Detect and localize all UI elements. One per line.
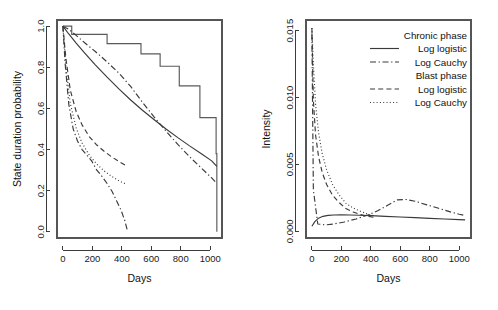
x-tick-label-5: 1000 bbox=[200, 253, 221, 264]
y-tick-label-0: 0.0 bbox=[36, 225, 47, 238]
y-tick-label-3: 0.015 bbox=[285, 19, 296, 43]
series-path-2 bbox=[312, 28, 374, 217]
legend-label-0: Chronic phase bbox=[404, 30, 468, 41]
series-path-0 bbox=[312, 215, 465, 226]
series-path-5 bbox=[63, 26, 128, 232]
y-axis-title: Intensity bbox=[260, 109, 272, 149]
series-path-0 bbox=[63, 26, 217, 232]
x-tick-label-5: 1000 bbox=[449, 253, 470, 264]
x-tick-label-3: 600 bbox=[392, 253, 408, 264]
x-tick-label-3: 600 bbox=[143, 253, 159, 264]
x-tick-label-0: 0 bbox=[60, 253, 65, 264]
y-tick-label-1: 0.2 bbox=[36, 184, 47, 197]
x-axis-title: Days bbox=[377, 272, 401, 284]
chart-panel-left: 02004006008001000Days0.00.20.40.60.81.0S… bbox=[0, 0, 249, 310]
plot-box bbox=[57, 20, 222, 238]
legend-label-3: Blast phase bbox=[416, 70, 468, 81]
x-tick-label-4: 800 bbox=[422, 253, 438, 264]
series-path-1 bbox=[63, 26, 217, 166]
y-tick-label-2: 0.010 bbox=[285, 86, 296, 110]
y-tick-label-5: 1.0 bbox=[36, 20, 47, 33]
x-tick-label-0: 0 bbox=[309, 253, 314, 264]
y-tick-label-3: 0.6 bbox=[36, 102, 47, 115]
series-path-3 bbox=[312, 28, 374, 216]
legend-label-2: Log Cauchy bbox=[415, 57, 467, 68]
y-tick-label-2: 0.4 bbox=[36, 143, 47, 156]
x-tick-label-1: 200 bbox=[84, 253, 100, 264]
chart-svg-right: 02004006008001000Days0.0000.0050.0100.01… bbox=[249, 0, 498, 310]
x-tick-label-1: 200 bbox=[333, 253, 349, 264]
series-path-2 bbox=[63, 26, 217, 183]
x-tick-label-4: 800 bbox=[173, 253, 189, 264]
curves-group bbox=[63, 26, 217, 232]
x-tick-label-2: 400 bbox=[363, 253, 379, 264]
chart-panel-right: 02004006008001000Days0.0000.0050.0100.01… bbox=[249, 0, 498, 310]
legend-label-1: Log logistic bbox=[418, 43, 467, 54]
figure-container: 02004006008001000Days0.00.20.40.60.81.0S… bbox=[0, 0, 498, 310]
chart-svg-left: 02004006008001000Days0.00.20.40.60.81.0S… bbox=[0, 0, 249, 310]
legend-label-4: Log logistic bbox=[418, 84, 467, 95]
legend-label-5: Log Cauchy bbox=[415, 97, 467, 108]
y-axis-title: State duration probability bbox=[11, 70, 23, 187]
y-tick-label-1: 0.005 bbox=[285, 153, 296, 177]
x-axis-title: Days bbox=[128, 272, 152, 284]
y-tick-label-4: 0.8 bbox=[36, 61, 47, 74]
x-tick-label-2: 400 bbox=[114, 253, 130, 264]
y-tick-label-0: 0.000 bbox=[285, 219, 296, 243]
series-path-3 bbox=[63, 26, 126, 165]
